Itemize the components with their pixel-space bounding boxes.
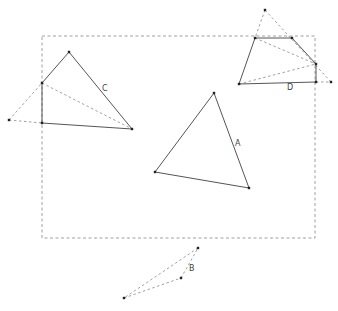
shape-a: A (154, 92, 250, 189)
vertex-point (248, 187, 250, 189)
vertex-point (123, 297, 125, 299)
shape-label-c: C (102, 84, 108, 93)
dashed-frame (42, 36, 315, 238)
shape-label-b: B (189, 264, 195, 273)
vertex-point (315, 63, 317, 65)
solid-edge (239, 38, 255, 84)
vertex-point (197, 247, 199, 249)
vertex-point (41, 82, 43, 84)
solid-edge (214, 93, 249, 188)
solid-edge (292, 38, 316, 64)
vertex-point (68, 51, 70, 53)
dashed-edge (265, 10, 331, 82)
dashed-edge (9, 120, 42, 123)
vertex-point (180, 277, 182, 279)
dashed-edge (255, 38, 316, 64)
dashed-edge (9, 83, 42, 120)
shape-d: D (238, 9, 332, 92)
vertex-point (213, 92, 215, 94)
vertex-point (131, 128, 133, 130)
vertex-point (238, 83, 240, 85)
vertex-point (41, 122, 43, 124)
dashed-edge (124, 248, 198, 298)
dashed-edge (124, 278, 181, 298)
dashed-edge (42, 83, 132, 129)
vertex-point (154, 171, 156, 173)
dashed-edge (239, 64, 316, 84)
vertex-point (330, 81, 332, 83)
solid-edge (69, 52, 132, 129)
vertex-point (254, 37, 256, 39)
vertex-point (315, 81, 317, 83)
solid-edge (42, 123, 132, 129)
vertex-point (291, 37, 293, 39)
solid-edge (155, 172, 249, 188)
geometry-diagram: ABCD (0, 0, 338, 311)
dashed-edge (181, 248, 198, 278)
solid-edge (239, 82, 316, 84)
dashed-edge (255, 10, 265, 38)
vertex-point (8, 119, 10, 121)
vertex-point (264, 9, 266, 11)
shape-b: B (123, 247, 199, 299)
shape-c: C (8, 51, 133, 130)
solid-edge (155, 93, 214, 172)
shape-label-a: A (235, 139, 241, 148)
solid-edge (42, 52, 69, 83)
shapes-layer: ABCD (8, 9, 332, 299)
shape-label-d: D (287, 83, 293, 92)
